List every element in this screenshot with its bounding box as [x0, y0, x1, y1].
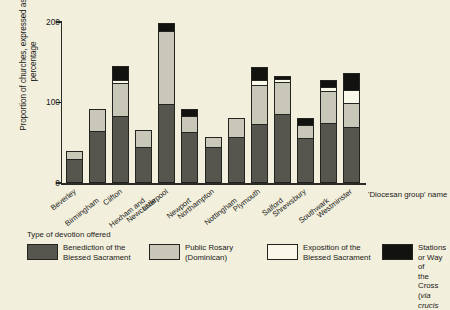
legend-items: Benediction of the Blessed SacramentPubl…	[27, 241, 447, 269]
bar-birmingham[interactable]	[89, 110, 106, 183]
bar-segment-benediction	[274, 114, 291, 183]
bar-segment-benediction	[297, 138, 314, 183]
legend-item-stations[interactable]: Stations or Way ofthe Cross (via crucis	[382, 243, 447, 310]
legend-item-exposition[interactable]: Exposition of the Blessed Sacrament	[267, 243, 371, 262]
bar-segment-benediction	[66, 159, 83, 183]
legend-swatch-exposition	[267, 244, 298, 260]
plot-area: 0100200	[62, 22, 362, 183]
bar-segment-exposition	[343, 90, 360, 104]
legend-item-benediction[interactable]: Benediction of the Blessed Sacrament	[27, 243, 131, 262]
legend-swatch-rosary	[149, 244, 180, 260]
bar-segment-benediction	[343, 127, 360, 183]
legend-title: Type of devotion offered	[27, 230, 447, 239]
x-axis-title: 'Diocesan group' name	[368, 190, 447, 199]
bar-segment-stations	[274, 76, 291, 80]
bar-northampton[interactable]	[205, 138, 222, 183]
legend: Type of devotion offered Benediction of …	[27, 230, 447, 269]
y-tick-label: 100	[20, 97, 60, 107]
bar-segment-rosary	[343, 103, 360, 128]
y-tick-label: 200	[20, 17, 60, 27]
bar-segment-stations	[112, 66, 129, 81]
bar-segment-benediction	[320, 123, 337, 183]
bar-hexham-and-newcastle[interactable]	[135, 131, 152, 183]
bar-segment-rosary	[274, 82, 291, 115]
x-axis-line	[61, 183, 366, 185]
bar-segment-stations	[158, 23, 175, 31]
bar-nottingham[interactable]	[228, 119, 245, 183]
bar-segment-rosary	[181, 116, 198, 133]
bar-newport[interactable]	[181, 110, 198, 183]
bar-segment-stations	[343, 73, 360, 91]
bar-westminster[interactable]	[343, 74, 360, 183]
bar-segment-rosary	[158, 31, 175, 105]
bar-segment-stations	[297, 118, 314, 126]
bar-segment-rosary	[320, 91, 337, 124]
bar-segment-rosary	[297, 125, 314, 139]
bar-segment-benediction	[181, 132, 198, 183]
bar-liverpool[interactable]	[158, 24, 175, 183]
bar-segment-benediction	[135, 147, 152, 183]
legend-swatch-stations	[382, 244, 413, 260]
bar-segment-rosary	[251, 85, 268, 125]
bar-beverley[interactable]	[66, 152, 83, 183]
bar-segment-benediction	[89, 131, 106, 183]
bar-segment-rosary	[89, 109, 106, 133]
legend-label: Public Rosary (Dominican)	[185, 243, 233, 262]
bar-segment-rosary	[112, 83, 129, 117]
bar-segment-rosary	[205, 137, 222, 148]
bar-segment-stations	[320, 80, 337, 88]
bar-segment-benediction	[158, 104, 175, 183]
bar-salford[interactable]	[274, 77, 291, 183]
y-tick-label: 0	[20, 178, 60, 188]
bar-segment-rosary	[66, 151, 83, 160]
bar-segment-benediction	[205, 146, 222, 183]
bar-segment-rosary	[228, 118, 245, 138]
legend-label: Benediction of the Blessed Sacrament	[63, 243, 131, 262]
bar-plymouth[interactable]	[251, 68, 268, 183]
bar-southwark[interactable]	[320, 82, 337, 183]
legend-label: Stations or Way ofthe Cross (via crucis	[418, 243, 447, 310]
bar-segment-benediction	[251, 124, 268, 183]
bar-segment-stations	[251, 67, 268, 81]
legend-swatch-benediction	[27, 244, 58, 260]
legend-item-rosary[interactable]: Public Rosary (Dominican)	[149, 243, 233, 262]
bar-shrewsbury[interactable]	[297, 119, 314, 183]
bar-segment-stations	[181, 109, 198, 117]
bar-segment-benediction	[112, 116, 129, 183]
legend-label: Exposition of the Blessed Sacrament	[303, 243, 371, 262]
bar-segment-benediction	[228, 137, 245, 183]
bar-segment-rosary	[135, 130, 152, 149]
bar-clifton[interactable]	[112, 67, 129, 183]
